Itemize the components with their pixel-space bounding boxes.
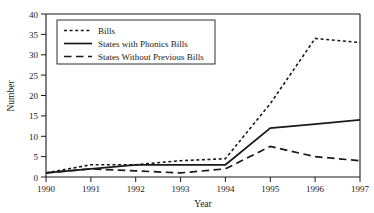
x-tick-label: 1996	[306, 184, 325, 194]
x-tick-label: 1992	[127, 184, 145, 194]
y-tick-label: 25	[29, 71, 39, 81]
line-chart-svg: 40 35 30 25 20 15 10 5 0 1990 1991 1992	[0, 0, 374, 213]
y-tick-label: 20	[29, 91, 39, 101]
chart-figure: 40 35 30 25 20 15 10 5 0 1990 1991 1992	[0, 0, 374, 213]
x-tick-label: 1990	[37, 184, 56, 194]
x-tick-label: 1991	[82, 184, 100, 194]
y-tick-label: 0	[34, 173, 39, 183]
legend-label-states-with-phonics-bills: States with Phonics Bills	[98, 39, 188, 49]
y-tick-label: 15	[29, 111, 39, 121]
y-tick-label: 35	[29, 30, 39, 40]
x-tick-label: 1993	[172, 184, 191, 194]
y-axis-title: Number	[6, 80, 16, 112]
legend-label-states-without-previous-bills: States Without Previous Bills	[98, 52, 204, 62]
x-tick-label: 1997	[351, 184, 370, 194]
y-tick-label: 5	[34, 152, 39, 162]
chart-legend: Bills States with Phonics Bills States W…	[57, 20, 215, 64]
y-tick-label: 10	[29, 132, 39, 142]
x-axis-title: Year	[194, 199, 212, 209]
y-tick-label: 40	[29, 10, 39, 20]
x-tick-label: 1995	[261, 184, 280, 194]
y-tick-label: 30	[29, 50, 39, 60]
x-tick-label: 1994	[216, 184, 235, 194]
legend-label-bills: Bills	[98, 26, 116, 36]
